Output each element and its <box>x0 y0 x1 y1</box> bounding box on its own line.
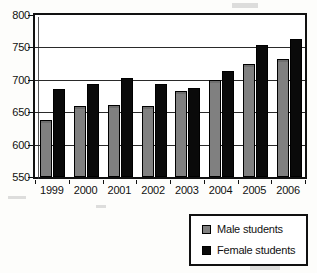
bar-top-cap <box>175 91 187 94</box>
bar-top-cap <box>108 105 120 108</box>
bar-male <box>142 108 154 177</box>
x-tick-mark <box>69 180 70 184</box>
x-tick-label: 2000 <box>74 184 98 196</box>
bar-top-cap <box>256 45 268 48</box>
bar-top-cap <box>121 78 133 81</box>
y-axis: 550600650700750800 <box>0 0 30 273</box>
bar-male <box>175 93 187 177</box>
bar-female <box>53 91 65 177</box>
bar-top-cap <box>87 84 99 87</box>
bar-top-cap <box>243 64 255 67</box>
x-tick-label: 2001 <box>108 184 132 196</box>
x-tick-label: 2006 <box>276 184 300 196</box>
bar-female <box>256 47 268 177</box>
bar-top-cap <box>155 84 167 87</box>
legend-item-female: Female students <box>202 244 295 256</box>
x-tick-mark <box>305 180 306 184</box>
bar-male <box>209 82 221 177</box>
x-tick-mark <box>103 180 104 184</box>
bar-female <box>121 80 133 177</box>
scan-speckle <box>96 205 106 208</box>
bar-top-cap <box>290 39 302 42</box>
bar-female <box>188 90 200 177</box>
female-swatch-icon <box>202 246 211 255</box>
x-tick-label: 2002 <box>141 184 165 196</box>
male-swatch-icon <box>202 225 211 234</box>
bar-chart: 550600650700750800 199920002001200220032… <box>0 0 317 273</box>
bar-top-cap <box>74 106 86 109</box>
x-tick-label: 2005 <box>243 184 267 196</box>
scan-speckle <box>250 266 280 270</box>
x-tick-label: 2004 <box>209 184 233 196</box>
bar-top-cap <box>277 59 289 62</box>
legend-label-male: Male students <box>217 223 283 235</box>
x-tick-mark <box>271 180 272 184</box>
scan-speckle <box>232 3 258 8</box>
bar-female <box>87 86 99 177</box>
x-tick-mark <box>136 180 137 184</box>
bar-top-cap <box>53 89 65 92</box>
bar-male <box>108 107 120 177</box>
bar-male <box>74 108 86 177</box>
x-tick-mark <box>204 180 205 184</box>
bar-female <box>155 86 167 177</box>
bar-male <box>40 122 52 177</box>
x-tick-label: 2003 <box>175 184 199 196</box>
bars-layer <box>35 15 305 177</box>
x-tick-mark <box>238 180 239 184</box>
x-tick-mark <box>170 180 171 184</box>
legend: Male students Female students <box>189 214 308 266</box>
bar-top-cap <box>209 80 221 83</box>
x-tick-mark <box>35 180 36 184</box>
bar-male <box>243 66 255 177</box>
bar-top-cap <box>222 71 234 74</box>
bar-top-cap <box>142 106 154 109</box>
bar-top-cap <box>40 120 52 123</box>
legend-label-female: Female students <box>217 244 295 256</box>
legend-item-male: Male students <box>202 223 283 235</box>
x-tick-label: 1999 <box>40 184 64 196</box>
scan-speckle <box>8 196 26 199</box>
bar-top-cap <box>188 88 200 91</box>
bar-male <box>277 61 289 177</box>
bar-female <box>222 73 234 177</box>
bar-female <box>290 41 302 177</box>
